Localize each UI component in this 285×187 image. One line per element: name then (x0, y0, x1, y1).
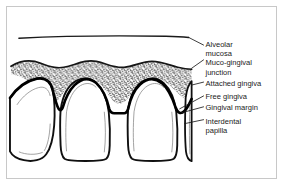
label-gingival-margin: Gingival margin (206, 103, 258, 112)
leader-alveolar-mucosa (189, 37, 204, 45)
label-attached-gingiva: Attached gingiva (206, 79, 263, 88)
label-muco-gingival-junction-line2: junction (205, 68, 232, 77)
label-interdental-papilla-line2: papilla (206, 126, 229, 135)
label-alveolar-mucosa-line1: Alveolar (206, 40, 234, 49)
label-alveolar-mucosa-line2: mucosa (206, 49, 233, 58)
leader-muco-gingival-junction (192, 60, 204, 68)
gingival-anatomy-diagram: Alveolar mucosa Muco-gingival junction A… (7, 7, 276, 178)
label-muco-gingival-junction-line1: Muco-gingival (206, 58, 253, 67)
alveolar-mucosa-line (19, 36, 189, 38)
label-interdental-papilla-line1: Interdental (206, 117, 242, 126)
label-block: Alveolar mucosa Muco-gingival junction A… (205, 40, 263, 135)
leader-attached-gingiva (192, 82, 204, 85)
figure-frame: Alveolar mucosa Muco-gingival junction A… (6, 6, 277, 179)
tooth-4 (185, 81, 191, 161)
label-free-gingiva: Free gingiva (206, 92, 248, 101)
